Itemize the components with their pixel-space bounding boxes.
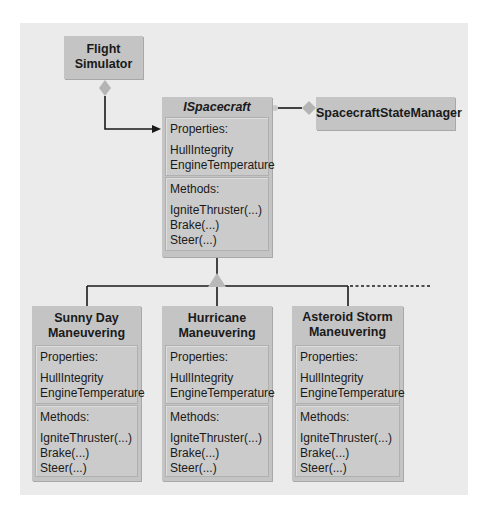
property-item: EngineTemperature xyxy=(40,386,145,401)
properties-label: Properties: xyxy=(170,122,228,136)
method-item: Brake(...) xyxy=(40,446,132,461)
ispacecraft-title: ISpacecraft xyxy=(162,100,272,115)
flight-simulator-title-line2: Simulator xyxy=(64,57,143,72)
methods-label: Methods: xyxy=(300,410,349,424)
property-item: HullIntegrity xyxy=(170,371,275,386)
state-manager-title: SpacecraftStateManager xyxy=(316,106,455,121)
inheritance-triangle-icon xyxy=(208,273,226,287)
method-item: IgniteThruster(...) xyxy=(170,431,262,446)
method-item: Steer(...) xyxy=(40,461,132,476)
hurricane-title-line1: Hurricane xyxy=(162,311,272,326)
method-item: Steer(...) xyxy=(170,461,262,476)
asteroid-storm-title-line1: Asteroid Storm xyxy=(292,310,403,325)
methods-section: Methods: IgniteThruster(...) Brake(...) … xyxy=(295,405,400,477)
properties-label: Properties: xyxy=(300,350,358,364)
asteroid-storm-box: Asteroid Storm Maneuvering Properties: H… xyxy=(292,306,403,481)
method-item: IgniteThruster(...) xyxy=(170,203,262,218)
properties-section: Properties: HullIntegrity EngineTemperat… xyxy=(35,345,138,404)
methods-section: Methods: IgniteThruster(...) Brake(...) … xyxy=(35,405,138,477)
property-item: HullIntegrity xyxy=(170,143,275,158)
method-item: Brake(...) xyxy=(170,446,262,461)
property-item: EngineTemperature xyxy=(170,158,275,173)
methods-label: Methods: xyxy=(170,410,219,424)
properties-label: Properties: xyxy=(40,350,98,364)
aggregation-diamond-icon xyxy=(99,80,111,96)
hurricane-title-line2: Maneuvering xyxy=(162,326,272,341)
properties-label: Properties: xyxy=(170,350,228,364)
ispacecraft-box: ISpacecraft Properties: HullIntegrity En… xyxy=(162,97,272,257)
method-item: Steer(...) xyxy=(300,461,392,476)
methods-label: Methods: xyxy=(40,410,89,424)
methods-label: Methods: xyxy=(170,182,219,196)
method-item: IgniteThruster(...) xyxy=(300,431,392,446)
method-item: Steer(...) xyxy=(170,233,262,248)
sunny-day-title-line1: Sunny Day xyxy=(32,311,141,326)
flight-simulator-box: Flight Simulator xyxy=(64,36,143,79)
method-item: Brake(...) xyxy=(300,446,392,461)
property-item: HullIntegrity xyxy=(300,371,405,386)
flight-simulator-title-line1: Flight xyxy=(64,42,143,57)
interface-circle-icon xyxy=(272,105,278,111)
property-item: EngineTemperature xyxy=(300,386,405,401)
method-item: IgniteThruster(...) xyxy=(40,431,132,446)
properties-section: Properties: HullIntegrity EngineTemperat… xyxy=(165,345,269,404)
property-item: EngineTemperature xyxy=(170,386,275,401)
methods-section: Methods: IgniteThruster(...) Brake(...) … xyxy=(165,405,269,477)
state-manager-box: SpacecraftStateManager xyxy=(316,97,455,130)
asteroid-storm-title-line2: Maneuvering xyxy=(292,325,403,340)
hurricane-box: Hurricane Maneuvering Properties: HullIn… xyxy=(162,306,272,481)
aggregation-diamond-icon xyxy=(302,101,316,115)
sunny-day-title-line2: Maneuvering xyxy=(32,326,141,341)
properties-section: Properties: HullIntegrity EngineTemperat… xyxy=(295,345,400,404)
method-item: Brake(...) xyxy=(170,218,262,233)
properties-section: Properties: HullIntegrity EngineTemperat… xyxy=(165,117,269,176)
arrow-head-icon xyxy=(152,125,161,133)
property-item: HullIntegrity xyxy=(40,371,145,386)
sunny-day-box: Sunny Day Maneuvering Properties: HullIn… xyxy=(32,306,141,481)
methods-section: Methods: IgniteThruster(...) Brake(...) … xyxy=(165,177,269,251)
